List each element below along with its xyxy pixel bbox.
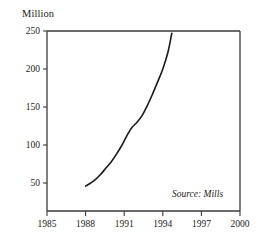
x-tick-label: 1991 [107, 219, 141, 229]
y-tick-label: 200 [14, 64, 40, 74]
y-tick-label: 250 [14, 26, 40, 36]
x-tick-label: 1988 [69, 219, 103, 229]
y-tick-label: 150 [14, 102, 40, 112]
data-series-line [86, 33, 172, 186]
x-tick-label: 1994 [146, 219, 180, 229]
x-axis-tick-marks [47, 211, 240, 216]
x-tick-label: 1985 [30, 219, 64, 229]
plot-frame [47, 31, 240, 211]
x-tick-label: 1997 [184, 219, 218, 229]
x-tick-label: 2000 [223, 219, 256, 229]
y-tick-label: 50 [14, 178, 40, 188]
y-tick-label: 100 [14, 140, 40, 150]
chart-container: Million 250 200 150 100 50 1985 1988 199… [0, 0, 256, 242]
line-chart-plot [0, 0, 256, 242]
source-attribution-note: Source: Mills [172, 189, 223, 199]
y-axis-unit-label: Million [22, 8, 54, 19]
